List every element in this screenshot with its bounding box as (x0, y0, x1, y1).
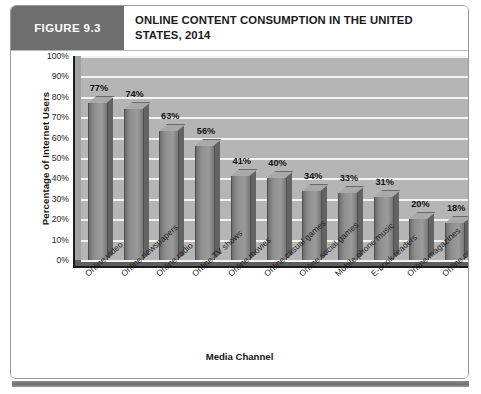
y-axis-ticks: 100%90%80%70%60%50%40%30%20%10%0% (37, 56, 69, 266)
bar[interactable] (195, 139, 213, 260)
bar-value-label: 20% (411, 199, 429, 209)
y-axis-tick-label: 80% (52, 92, 69, 102)
x-axis-title: Media Channel (11, 351, 468, 362)
bar-value-label: 31% (375, 177, 393, 187)
bar-front-face (195, 146, 215, 260)
bar[interactable] (231, 169, 249, 260)
bar-value-label: 77% (90, 83, 108, 93)
y-axis-tick-label: 70% (52, 112, 69, 122)
y-axis-tick-label: 100% (47, 51, 69, 61)
gridline (81, 76, 469, 78)
x-axis-tick-labels: Online videoOnline newspapersOnline radi… (73, 271, 469, 353)
bar-front-face (124, 109, 144, 260)
figure-title: ONLINE CONTENT CONSUMPTION IN THE UNITED… (124, 6, 468, 50)
y-axis-tick-label: 90% (52, 71, 69, 81)
bar-front-face (231, 176, 251, 260)
bar-value-label: 41% (233, 156, 251, 166)
bar[interactable] (88, 96, 106, 260)
bar-value-label: 33% (340, 173, 358, 183)
figure-number-badge: FIGURE 9.3 (11, 6, 124, 50)
bar-value-label: 40% (268, 158, 286, 168)
bar-value-label: 56% (197, 126, 215, 136)
bar-front-face (88, 103, 108, 260)
y-axis-tick-label: 10% (52, 235, 69, 245)
bar-value-label: 63% (161, 111, 179, 121)
bar-value-label: 34% (304, 171, 322, 181)
y-axis-tick-label: 0% (57, 255, 69, 265)
figure-container: FIGURE 9.3 ONLINE CONTENT CONSUMPTION IN… (10, 5, 469, 379)
bar[interactable] (267, 171, 285, 260)
figure-bottom-rule (12, 381, 469, 387)
figure-header: FIGURE 9.3 ONLINE CONTENT CONSUMPTION IN… (11, 6, 468, 50)
y-axis-tick-label: 60% (52, 133, 69, 143)
y-axis-tick-label: 50% (52, 153, 69, 163)
y-axis-tick-label: 40% (52, 173, 69, 183)
bar-value-label: 18% (447, 203, 465, 213)
bar-value-label: 74% (125, 89, 143, 99)
bar[interactable] (124, 102, 142, 260)
y-axis-tick-label: 20% (52, 214, 69, 224)
bar-front-face (267, 178, 287, 260)
y-axis-line (73, 56, 75, 268)
gridline (81, 56, 469, 58)
chart-area: Percentage of Internet Users 100%90%80%7… (11, 51, 468, 379)
y-axis-tick-label: 30% (52, 194, 69, 204)
